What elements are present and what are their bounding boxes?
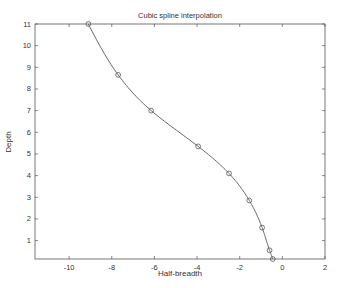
y-tick-label: 11 [23, 20, 31, 29]
x-tick-label: -8 [108, 263, 115, 272]
y-tick-label: 8 [27, 84, 31, 93]
x-tick-label: -10 [64, 263, 75, 272]
data-markers [86, 22, 275, 262]
plot-area [35, 24, 325, 259]
y-tick-label: 3 [27, 193, 31, 202]
y-axis-label: Depth [4, 131, 13, 152]
y-tick-label: 4 [27, 171, 31, 180]
x-tick-label: 0 [280, 263, 284, 272]
x-axis-ticks: -10-8-6-4-202 [64, 24, 327, 272]
y-tick-label: 9 [27, 63, 31, 72]
y-tick-label: 2 [27, 214, 31, 223]
y-tick-label: 10 [23, 41, 31, 50]
chart-title: Cubic spline interpolation [138, 11, 222, 20]
x-tick-label: -2 [236, 263, 243, 272]
y-tick-label: 5 [27, 149, 31, 158]
x-tick-label: 2 [323, 263, 327, 272]
y-axis-ticks: 1234567891011 [23, 20, 325, 246]
y-tick-label: 1 [27, 236, 31, 245]
chart: Cubic spline interpolation -10-8-6-4-202… [0, 0, 342, 288]
y-tick-label: 7 [27, 106, 31, 115]
x-tick-label: -6 [151, 263, 158, 272]
x-axis-label: Half-breadth [158, 269, 202, 278]
spline-curve [88, 24, 272, 259]
y-tick-label: 6 [27, 128, 31, 137]
